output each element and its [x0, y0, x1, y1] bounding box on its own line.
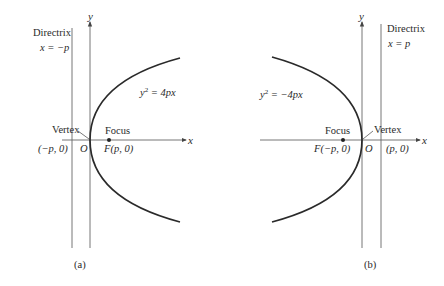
parabola-equation: y2 = −4px	[259, 88, 303, 100]
x-axis-label: x	[421, 134, 427, 146]
panel-b-caption: (b)	[364, 259, 377, 271]
panel-b: y x Directrix x = p y2 = −4px Vertex Foc…	[259, 10, 427, 271]
vertex-label: Vertex	[52, 124, 80, 135]
y-axis-label: y	[358, 10, 364, 22]
directrix-equation: x = −p	[39, 42, 69, 53]
focus-point	[107, 138, 111, 142]
directrix-title: Directrix	[387, 23, 426, 34]
focus-label: Focus	[105, 125, 130, 136]
directrix-point-label: (p, 0)	[386, 143, 409, 155]
directrix-point-label: (−p, 0)	[38, 143, 68, 155]
focus-point-label: F(−p, 0)	[313, 143, 351, 155]
origin-label: O	[80, 143, 88, 154]
origin-label: O	[365, 143, 373, 154]
y-axis-label: y	[87, 10, 93, 22]
directrix-equation: x = p	[387, 38, 410, 49]
parabola-diagram: y x Directrix x = −p y2 = 4px Vertex Foc…	[0, 0, 444, 286]
panel-a-caption: (a)	[74, 259, 86, 271]
focus-point	[341, 138, 345, 142]
vertex-leader	[78, 131, 89, 139]
x-axis-label: x	[187, 134, 193, 146]
parabola-equation: y2 = 4px	[139, 86, 176, 98]
directrix-title: Directrix	[33, 27, 72, 38]
focus-point-label: F(p, 0)	[103, 143, 134, 155]
vertex-label: Vertex	[374, 124, 402, 135]
focus-label: Focus	[325, 125, 350, 136]
vertex-leader	[363, 131, 373, 139]
parabola-curve	[272, 57, 362, 222]
panel-a: y x Directrix x = −p y2 = 4px Vertex Foc…	[33, 10, 193, 271]
